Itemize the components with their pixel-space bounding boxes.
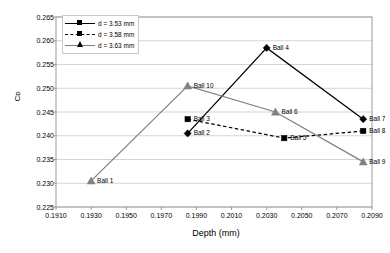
point-label: Ball 4 [273, 44, 289, 51]
series-1 [184, 44, 367, 137]
legend-key-icon [65, 30, 95, 40]
point-label: Ball 6 [281, 108, 297, 115]
legend-item[interactable]: d = 3.63 mm [65, 40, 134, 51]
data-point-marker [282, 135, 287, 140]
point-label: Ball 10 [194, 82, 214, 89]
legend-key-icon [65, 41, 95, 51]
legend-label: d = 3.63 mm [98, 42, 134, 49]
series-2 [185, 116, 366, 140]
point-label: Ball 2 [194, 129, 210, 136]
series-line [188, 48, 364, 134]
data-point-marker [184, 82, 192, 89]
x-axis-title: Depth (mm) [56, 228, 376, 238]
series-line [91, 86, 363, 181]
point-label: Ball 7 [369, 115, 385, 122]
data-series-group [87, 44, 367, 184]
point-label: Ball 1 [97, 177, 113, 184]
data-point-marker [361, 128, 366, 133]
point-label: Ball 8 [369, 127, 385, 134]
chart-legend: d = 3.53 mmd = 3.58 mmd = 3.63 mm [62, 15, 139, 54]
legend-item[interactable]: d = 3.58 mm [65, 29, 134, 40]
legend-key-icon [65, 19, 95, 29]
data-point-marker [185, 116, 190, 121]
data-point-marker [359, 158, 367, 165]
point-label: Ball 9 [369, 158, 385, 165]
point-label: Ball 3 [194, 115, 210, 122]
point-label: Ball 5 [290, 134, 306, 141]
legend-label: d = 3.53 mm [98, 20, 134, 27]
legend-label: d = 3.58 mm [98, 31, 134, 38]
legend-item[interactable]: d = 3.53 mm [65, 18, 134, 29]
series-3 [87, 82, 367, 184]
